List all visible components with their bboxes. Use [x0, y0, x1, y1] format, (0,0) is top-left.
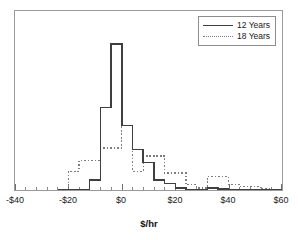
xtick-label-0: $0: [116, 195, 126, 206]
legend-item-12-years: 12 Years: [203, 20, 270, 31]
legend-label-18-years: 18 Years: [237, 32, 270, 41]
legend-label-12-years: 12 Years: [237, 21, 270, 30]
histogram-figure: 12 Years 18 Years -$40 -$20 $0 $20 $40 $…: [0, 0, 298, 240]
legend-line-dotted-icon: [203, 32, 233, 41]
xtick-label-neg20: -$20: [59, 195, 77, 206]
xtick-label-neg40: -$40: [6, 195, 24, 206]
xtick-label-60: $60: [273, 195, 288, 206]
x-axis-title: $/hr: [0, 218, 298, 229]
xtick-label-20: $20: [167, 195, 182, 206]
xtick-label-40: $40: [220, 195, 235, 206]
series-line-12-years: [58, 44, 282, 190]
legend-item-18-years: 18 Years: [203, 31, 270, 42]
legend: 12 Years 18 Years: [198, 16, 276, 46]
legend-line-solid-icon: [203, 21, 233, 30]
